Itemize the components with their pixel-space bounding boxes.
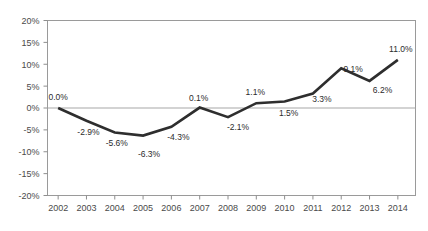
y-tick-label: -20% (18, 191, 39, 201)
data-point-label: 11.0% (389, 44, 413, 54)
x-tick-label: 2010 (275, 203, 295, 213)
line-chart: 20%15%10%5%0%-5%-10%-15%-20% 20022003200… (0, 0, 428, 231)
y-tick-label: 0% (26, 103, 39, 113)
x-tick-label: 2002 (48, 203, 68, 213)
data-point-label: -4.3% (167, 132, 190, 142)
x-tick-label: 2005 (133, 203, 153, 213)
data-point-label: -5.6% (106, 138, 129, 148)
x-tick-label: 2003 (76, 203, 96, 213)
data-point-label: 6.2% (373, 85, 393, 95)
data-point-label: 9.1% (344, 64, 364, 74)
data-point-label: -6.3% (138, 149, 161, 159)
data-point-label: -2.9% (77, 127, 100, 137)
chart-canvas: 20%15%10%5%0%-5%-10%-15%-20% 20022003200… (0, 0, 428, 231)
data-point-label: 0.0% (48, 92, 68, 102)
x-tick-label: 2004 (105, 203, 125, 213)
x-tick-label: 2006 (161, 203, 181, 213)
x-tick-label: 2009 (246, 203, 266, 213)
data-point-label: 1.5% (279, 108, 299, 118)
x-tick-label: 2011 (303, 203, 322, 213)
y-tick-label: -15% (18, 169, 39, 179)
data-point-label: 3.3% (312, 94, 332, 104)
x-tick-label: 2008 (218, 203, 238, 213)
data-point-label: -2.1% (227, 122, 250, 132)
x-tick-label: 2013 (360, 203, 380, 213)
x-tick-label: 2007 (190, 203, 210, 213)
data-point-label: 0.1% (189, 93, 209, 103)
y-tick-label: 15% (21, 38, 39, 48)
y-tick-label: 5% (26, 82, 39, 92)
y-tick-label: 20% (21, 16, 39, 26)
chart-background (0, 0, 428, 231)
x-tick-label: 2012 (331, 203, 351, 213)
x-tick-label: 2014 (388, 203, 408, 213)
y-tick-label: -5% (23, 125, 39, 135)
y-tick-label: 10% (21, 60, 39, 70)
y-tick-label: -10% (18, 147, 39, 157)
data-point-label: 1.1% (246, 87, 266, 97)
